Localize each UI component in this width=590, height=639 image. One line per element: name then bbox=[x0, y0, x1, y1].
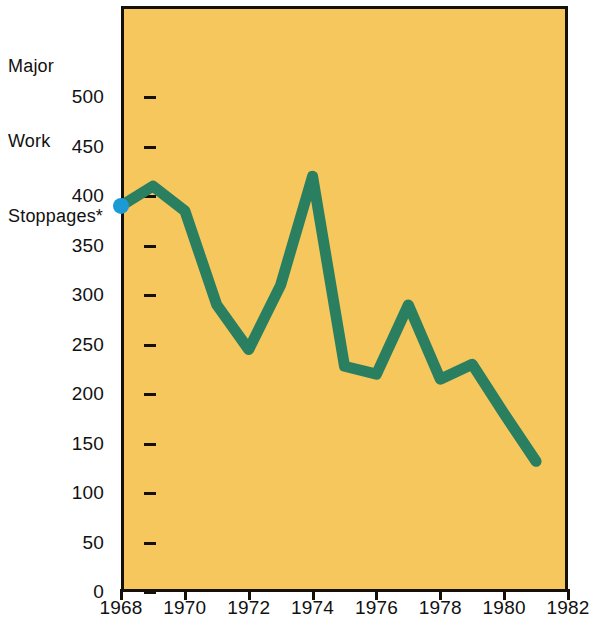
x-axis-tick-label: 1980 bbox=[483, 597, 526, 619]
x-axis-tick-label: 1972 bbox=[227, 597, 270, 619]
y-axis-tick-label: 250 bbox=[40, 334, 104, 356]
y-axis-tick-label: 300 bbox=[40, 284, 104, 306]
x-axis-tick-label: 1982 bbox=[546, 597, 589, 619]
y-axis-tick-label: 150 bbox=[40, 433, 104, 455]
x-axis-tick-label: 1970 bbox=[163, 597, 206, 619]
y-axis-tick-label: 350 bbox=[40, 235, 104, 257]
y-axis-tick-label: 500 bbox=[40, 86, 104, 108]
y-axis-tick-label: 450 bbox=[40, 136, 104, 158]
x-axis-tick-label: 1974 bbox=[291, 597, 334, 619]
line-series bbox=[121, 6, 568, 592]
y-axis-tick-label: 0 bbox=[40, 581, 104, 603]
x-axis-tick-label: 1976 bbox=[355, 597, 398, 619]
data-line bbox=[121, 176, 536, 461]
y-axis-tick-label: 50 bbox=[40, 532, 104, 554]
y-axis-tick-label: 200 bbox=[40, 383, 104, 405]
x-axis-tick-label: 1978 bbox=[419, 597, 462, 619]
y-axis-tick-label: 100 bbox=[40, 482, 104, 504]
data-point-marker[interactable] bbox=[113, 198, 129, 214]
y-axis: 050100150200250300350400450500 bbox=[34, 0, 104, 639]
y-axis-tick-label: 400 bbox=[40, 185, 104, 207]
x-axis-tick-label: 1968 bbox=[99, 597, 142, 619]
